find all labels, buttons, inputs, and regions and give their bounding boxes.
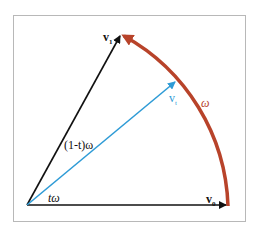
vector-v1 (27, 36, 120, 205)
label-t-omega: tω (48, 192, 60, 204)
label-v1: v1 (103, 31, 113, 46)
label-one-minus-t-omega: (1-t)ω (64, 139, 93, 151)
label-vt: vt (169, 92, 177, 107)
label-omega: ω (201, 97, 209, 109)
diagram-canvas (0, 0, 260, 233)
vector-vt (27, 82, 175, 205)
label-v0: v0 (206, 193, 216, 208)
omega-arc (124, 36, 228, 206)
